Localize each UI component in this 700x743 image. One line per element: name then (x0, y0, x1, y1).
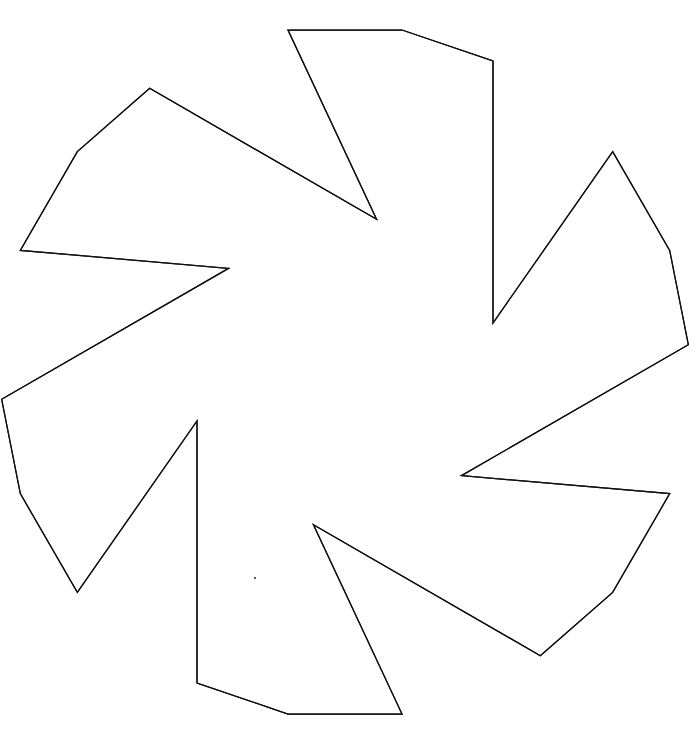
speck (254, 577, 256, 579)
rosette-svg (0, 0, 700, 743)
speck-group (254, 577, 256, 579)
star-polygon-b (2, 30, 689, 714)
figure-canvas (0, 0, 700, 743)
star-group (2, 30, 689, 714)
star-polygon-a (2, 30, 689, 714)
